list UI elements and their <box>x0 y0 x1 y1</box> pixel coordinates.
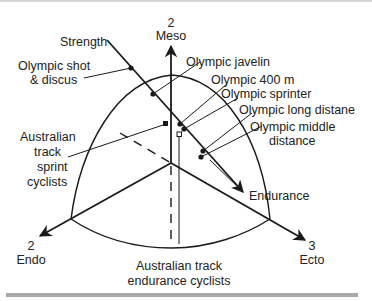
ecto-number: 3 <box>309 239 316 253</box>
middle-distance-arrow <box>210 160 243 192</box>
ecto-label: Ecto <box>299 253 324 267</box>
endo-number: 2 <box>28 239 35 253</box>
label-400m: Olympic 400 m <box>211 73 294 87</box>
label-aus-sprint-1: Australian <box>20 130 76 144</box>
point-australian-sprint <box>163 121 168 126</box>
somatochart: 2 Meso 2 Endo 3 Ecto Strength Endurance … <box>0 0 372 301</box>
label-long-distance: Olympic long distane <box>239 103 355 117</box>
point-javelin <box>150 91 155 96</box>
point-shot-discus <box>128 65 133 70</box>
endurance-label: Endurance <box>249 189 310 203</box>
bottom-rule <box>6 293 358 297</box>
label-shot-discus-1: Olympic shot <box>18 59 91 73</box>
label-aus-sprint-3: sprint <box>37 160 68 174</box>
label-aus-endurance-2: endurance cyclists <box>128 274 231 288</box>
meso-number: 2 <box>168 16 175 30</box>
label-shot-discus-2: & discus <box>30 73 77 87</box>
label-aus-endurance-1: Australian track <box>136 259 223 273</box>
point-sprinter <box>181 126 186 131</box>
point-400m <box>177 121 182 126</box>
label-aus-sprint-4: cyclists <box>27 175 67 189</box>
meso-label: Meso <box>156 29 187 43</box>
strength-label: Strength <box>60 35 107 49</box>
point-australian-endurance <box>177 132 182 137</box>
label-aus-sprint-2: track <box>34 145 62 159</box>
point-middle-distance <box>198 154 203 159</box>
label-sprinter: Olympic sprinter <box>221 87 311 101</box>
point-long-distance <box>200 148 205 153</box>
label-javelin: Olympic javelin <box>186 55 270 69</box>
endo-label: Endo <box>16 253 45 267</box>
label-middle-distance-2: distance <box>269 134 316 148</box>
label-middle-distance-1: Olympic middle <box>250 120 335 134</box>
dashed-reference-lines <box>120 133 171 246</box>
